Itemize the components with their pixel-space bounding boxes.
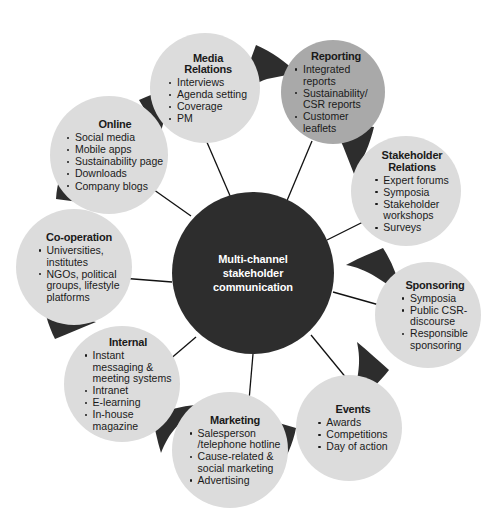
list-item: Symposia (375, 187, 448, 199)
list-item: Customer leaflets (295, 111, 377, 134)
node-title-sponsoring: Sponsoring (405, 280, 464, 292)
list-item: Competitions (318, 429, 387, 441)
list-item: Stakeholder workshops (375, 199, 448, 222)
list-item: E-learning (85, 397, 172, 409)
spoke-reporting (286, 141, 312, 203)
list-item: Company blogs (67, 181, 163, 193)
list-item: Mobile apps (67, 144, 163, 156)
list-item: Social media (67, 132, 163, 144)
node-title-media-relations: Media Relations (184, 53, 232, 77)
node-title-events: Events (336, 404, 371, 416)
node-online[interactable]: Online Social media Mobile apps Sustaina… (50, 96, 168, 214)
node-list-reporting: Integrated reports Sustainability/ CSR r… (295, 64, 377, 135)
node-list-online: Social media Mobile apps Sustainability … (67, 132, 163, 192)
list-item: Agenda setting (169, 89, 247, 101)
list-item: Expert forums (375, 175, 448, 187)
list-item: PM (169, 113, 247, 125)
node-stakeholder-relations[interactable]: Stakeholder Relations Expert forums Symp… (351, 136, 461, 246)
node-sponsoring[interactable]: Sponsoring Symposia Public CSR- discours… (375, 262, 481, 368)
node-list-sponsoring: Symposia Public CSR- discourse Responsib… (402, 293, 468, 352)
center-hub[interactable]: Multi-channel stakeholder communication (172, 192, 334, 354)
list-item: Cause-related & social marketing (190, 451, 281, 474)
node-title-internal: Internal (109, 337, 147, 349)
node-internal[interactable]: Internal Instant messaging & meeting sys… (64, 326, 180, 442)
node-list-internal: Instant messaging & meeting systems Intr… (85, 350, 172, 433)
list-item: Coverage (169, 101, 247, 113)
node-reporting[interactable]: Reporting Integrated reports Sustainabil… (281, 40, 385, 144)
node-title-stakeholder-relations: Stakeholder Relations (382, 150, 443, 174)
list-item: NGOs, political groups, lifestyle platfo… (39, 269, 120, 304)
node-marketing[interactable]: Marketing Salesperson /telephone hotline… (172, 392, 288, 508)
center-hub-label: Multi-channel stakeholder communication (213, 252, 293, 294)
node-list-events: Awards Competitions Day of action (318, 417, 387, 453)
list-item: Sustainability/ CSR reports (295, 88, 377, 111)
list-item: Salesperson /telephone hotline (190, 428, 281, 451)
list-item: Advertising (190, 475, 281, 487)
node-title-co-operation: Co-operation (46, 232, 112, 244)
node-list-marketing: Salesperson /telephone hotline Cause-rel… (190, 428, 281, 487)
list-item: Interviews (169, 77, 247, 89)
node-co-operation[interactable]: Co-operation Universities, institutes NG… (16, 209, 132, 325)
list-item: Universities, institutes (39, 245, 120, 268)
list-item: Public CSR- discourse (402, 305, 468, 328)
node-title-online: Online (98, 119, 131, 131)
list-item: Day of action (318, 441, 387, 453)
node-title-marketing: Marketing (210, 415, 260, 427)
list-item: Integrated reports (295, 64, 377, 87)
list-item: Responsible sponsoring (402, 328, 468, 351)
list-item: In-house magazine (85, 409, 172, 432)
list-item: Symposia (402, 293, 468, 305)
list-item: Sustainability page (67, 156, 163, 168)
diagram-canvas: Multi-channel stakeholder communication … (0, 0, 497, 515)
list-item: Downloads (67, 168, 163, 180)
node-media-relations[interactable]: Media Relations Interviews Agenda settin… (150, 33, 260, 143)
node-title-reporting: Reporting (311, 51, 361, 63)
list-item: Instant messaging & meeting systems (85, 350, 172, 385)
node-list-stakeholder-relations: Expert forums Symposia Stakeholder works… (375, 175, 448, 235)
node-list-media-relations: Interviews Agenda setting Coverage PM (169, 77, 247, 125)
list-item: Awards (318, 417, 387, 429)
list-item: Intranet (85, 385, 172, 397)
node-list-co-operation: Universities, institutes NGOs, political… (39, 245, 120, 304)
node-events[interactable]: Events Awards Competitions Day of action (296, 375, 402, 481)
list-item: Surveys (375, 222, 448, 234)
